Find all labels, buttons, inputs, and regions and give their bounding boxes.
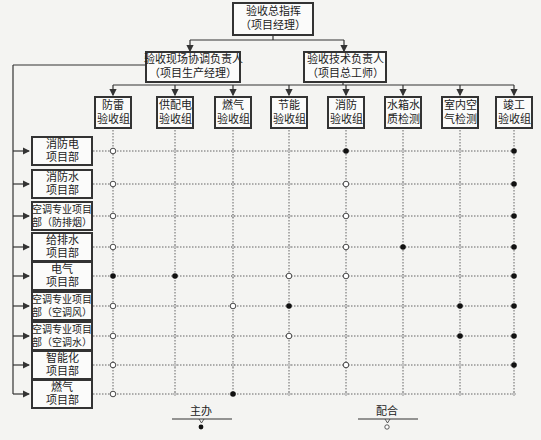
- group-box-6: 室内空气检测: [441, 96, 479, 129]
- group-label-line1: 水箱水: [387, 99, 420, 113]
- group-label-line1: 竣工: [503, 99, 525, 113]
- commander-box: 验收总指挥 （项目经理）: [232, 2, 314, 36]
- department-box-6: 空调专业项目部（空调水）: [31, 321, 93, 351]
- group-label-line1: 消防: [335, 99, 357, 113]
- department-label-line1: 给排水: [46, 234, 79, 247]
- department-box-3: 给排水项目部: [31, 232, 93, 262]
- department-label-line1: 电气: [51, 263, 73, 276]
- group-box-2: 燃气验收组: [214, 96, 252, 129]
- department-box-1: 消防水项目部: [31, 169, 93, 199]
- group-box-0: 防雷验收组: [94, 96, 132, 129]
- department-label-line2: 部（空调风）: [32, 306, 92, 319]
- group-label-line2: 气检测: [444, 113, 477, 127]
- department-label-line2: 项目部: [46, 247, 79, 260]
- group-label-line2: 验收组: [97, 113, 130, 127]
- commander-title: 验收总指挥: [246, 5, 301, 19]
- department-box-4: 电气项目部: [31, 261, 93, 291]
- technical-role: （项目总工师）: [307, 67, 384, 81]
- department-box-2: 空调专业项目部（防排烟）: [31, 201, 93, 231]
- group-label-line2: 验收组: [159, 113, 192, 127]
- department-box-7: 智能化项目部: [31, 350, 93, 380]
- department-box-8: 燃气项目部: [31, 379, 93, 409]
- group-label-line2: 验收组: [273, 113, 306, 127]
- legend-support-label: 配合: [376, 402, 398, 418]
- department-label-line1: 消防水: [46, 171, 79, 184]
- group-box-5: 水箱水质检测: [384, 96, 422, 129]
- department-box-5: 空调专业项目部（空调风）: [31, 291, 93, 321]
- group-label-line2: 验收组: [330, 113, 363, 127]
- group-label-line2: 验收组: [217, 113, 250, 127]
- group-label-line1: 防雷: [102, 99, 124, 113]
- group-label-line1: 节能: [278, 99, 300, 113]
- department-label-line2: 部（防排烟）: [32, 216, 92, 229]
- department-label-line2: 项目部: [46, 276, 79, 289]
- group-box-3: 节能验收组: [270, 96, 308, 129]
- department-label-line1: 消防电: [46, 138, 79, 151]
- coordinator-title: 验收现场协调负责人: [144, 53, 243, 67]
- department-label-line2: 项目部: [46, 151, 79, 164]
- department-label-line1: 智能化: [46, 352, 79, 365]
- group-box-7: 竣工验收组: [495, 96, 533, 129]
- coordinator-role: （项目生产经理）: [149, 67, 237, 81]
- group-label-line2: 验收组: [498, 113, 531, 127]
- legend-primary-label: 主办: [190, 402, 212, 418]
- group-box-4: 消防验收组: [327, 96, 365, 129]
- department-label-line1: 空调专业项目: [32, 323, 92, 336]
- group-box-1: 供配电验收组: [156, 96, 194, 129]
- group-label-line1: 燃气: [222, 99, 244, 113]
- department-box-0: 消防电项目部: [31, 136, 93, 166]
- technical-box: 验收技术负责人 （项目总工师）: [303, 51, 387, 83]
- coordinator-box: 验收现场协调负责人 （项目生产经理）: [145, 51, 241, 83]
- department-label-line1: 空调专业项目: [32, 203, 92, 216]
- group-label-line2: 质检测: [387, 113, 420, 127]
- department-label-line2: 项目部: [46, 394, 79, 407]
- department-label-line2: 部（空调水）: [32, 336, 92, 349]
- technical-title: 验收技术负责人: [307, 53, 384, 67]
- commander-role: （项目经理）: [240, 19, 306, 33]
- group-label-line1: 供配电: [159, 99, 192, 113]
- department-label-line2: 项目部: [46, 365, 79, 378]
- department-label-line1: 燃气: [51, 381, 73, 394]
- group-label-line1: 室内空: [444, 99, 477, 113]
- department-label-line2: 项目部: [46, 184, 79, 197]
- department-label-line1: 空调专业项目: [32, 293, 92, 306]
